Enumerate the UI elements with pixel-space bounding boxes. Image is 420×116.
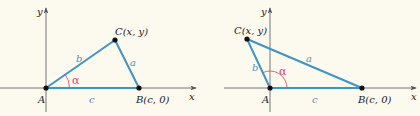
side-c-label: c — [312, 94, 318, 105]
point-B-label: B(c, 0) — [357, 94, 392, 105]
point-B — [136, 85, 141, 90]
x-axis-label: x — [411, 91, 417, 102]
point-A-label: A — [37, 94, 45, 105]
angle-alpha-label: α — [279, 65, 287, 78]
y-axis-label: y — [260, 6, 267, 17]
triangle — [46, 40, 139, 88]
law-of-cosines-figure: y x α b a c A B(c, 0) C(x, y) y x α b a … — [0, 0, 420, 116]
side-b-label: b — [252, 62, 258, 73]
point-A — [267, 85, 272, 90]
side-a-label: a — [130, 57, 136, 68]
point-B — [359, 85, 364, 90]
side-c-label: c — [89, 94, 95, 105]
point-C — [244, 36, 249, 41]
point-C — [112, 37, 117, 42]
point-C-label: C(x, y) — [115, 26, 148, 37]
x-axis-label: x — [189, 91, 195, 102]
angle-arc — [65, 75, 69, 88]
diagram-acute: y x α b a c A B(c, 0) C(x, y) — [0, 6, 196, 112]
diagram-obtuse: y x α b a c A B(c, 0) C(x, y) — [224, 6, 417, 112]
side-a-label: a — [306, 53, 312, 64]
point-A — [43, 85, 48, 90]
side-b-label: b — [76, 53, 82, 64]
y-axis-label: y — [36, 6, 43, 17]
point-B-label: B(c, 0) — [135, 94, 170, 105]
point-C-label: C(x, y) — [234, 25, 267, 36]
angle-alpha-label: α — [72, 74, 80, 87]
triangle — [247, 39, 362, 88]
point-A-label: A — [261, 94, 269, 105]
